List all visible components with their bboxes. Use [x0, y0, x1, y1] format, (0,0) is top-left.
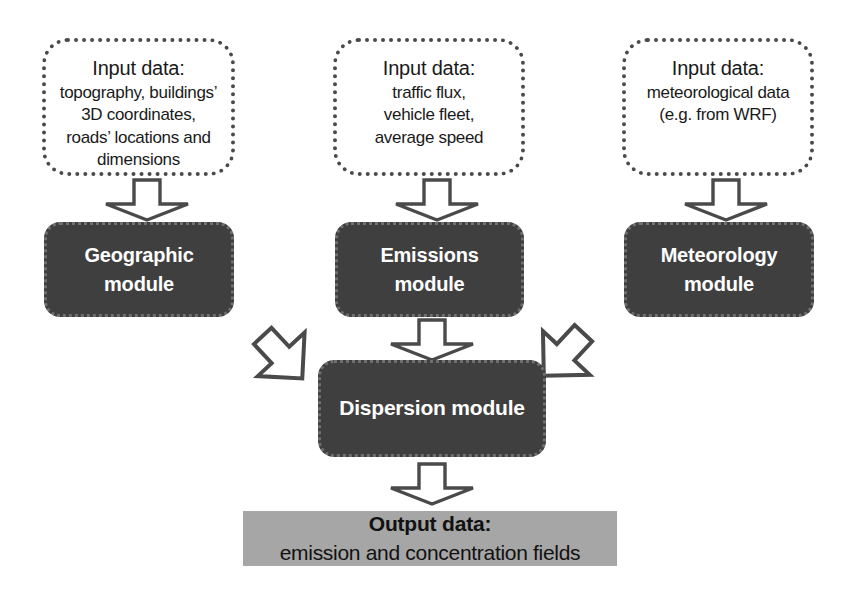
module-line: Emissions: [380, 241, 478, 270]
arrow-emissions-to-dispersion-icon: [389, 318, 475, 362]
input-box-meteorology-title: Input data:: [672, 56, 764, 80]
output-data-box: Output data: emission and concentration …: [243, 511, 617, 566]
input-line: average speed: [375, 127, 484, 149]
module-emissions-label: Emissions module: [380, 241, 478, 299]
input-box-emissions-body: traffic flux, vehicle fleet, average spe…: [369, 82, 490, 148]
module-geographic-label: Geographic module: [84, 241, 193, 299]
input-line: 3D coordinates,: [60, 104, 218, 126]
module-emissions[interactable]: Emissions module: [335, 222, 524, 317]
input-box-meteorology: Input data: meteorological data (e.g. fr…: [622, 38, 814, 176]
input-line: roads’ locations and: [60, 127, 218, 149]
input-line: vehicle fleet,: [375, 104, 484, 126]
module-dispersion-label: Dispersion module: [339, 393, 525, 423]
diagram-canvas: Input data: topography, buildings’ 3D co…: [0, 0, 844, 595]
module-line: Meteorology: [661, 241, 778, 270]
input-box-emissions: Input data: traffic flux, vehicle fleet,…: [333, 38, 525, 176]
input-box-emissions-title: Input data:: [383, 56, 475, 80]
input-line: topography, buildings’: [60, 82, 218, 104]
module-line: module: [84, 270, 193, 299]
arrow-geographic-input-to-module-icon: [104, 178, 190, 222]
input-line: meteorological data: [647, 82, 790, 104]
output-data-title: Output data:: [369, 511, 491, 537]
module-meteorology[interactable]: Meteorology module: [624, 222, 814, 317]
module-geographic[interactable]: Geographic module: [44, 222, 234, 317]
input-box-meteorology-body: meteorological data (e.g. from WRF): [641, 82, 796, 126]
input-line: traffic flux,: [375, 82, 484, 104]
arrow-geographic-to-dispersion-icon: [249, 322, 323, 394]
module-line: Dispersion module: [339, 393, 525, 423]
module-dispersion[interactable]: Dispersion module: [318, 360, 546, 457]
arrow-emissions-input-to-module-icon: [394, 178, 480, 222]
module-line: module: [661, 270, 778, 299]
input-line: (e.g. from WRF): [647, 104, 790, 126]
arrow-dispersion-to-output-icon: [389, 462, 475, 506]
module-line: Geographic: [84, 241, 193, 270]
input-box-geographic-body: topography, buildings’ 3D coordinates, r…: [54, 82, 224, 170]
module-meteorology-label: Meteorology module: [661, 241, 778, 299]
module-line: module: [380, 270, 478, 299]
arrow-meteorology-input-to-module-icon: [683, 178, 769, 222]
output-data-subtitle: emission and concentration fields: [280, 540, 581, 566]
input-box-geographic-title: Input data:: [92, 56, 184, 80]
input-line: dimensions: [60, 149, 218, 171]
input-box-geographic: Input data: topography, buildings’ 3D co…: [42, 38, 235, 176]
